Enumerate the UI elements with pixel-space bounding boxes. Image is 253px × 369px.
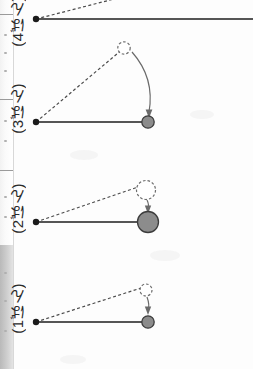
pendulum-2-release-bob <box>137 181 156 200</box>
pendulum-1-pivot <box>33 319 39 325</box>
pendulum-2 <box>33 181 159 233</box>
pendulum-3-release-line <box>36 48 124 122</box>
pendulum-1-bob <box>142 316 154 328</box>
pendulum-3 <box>33 42 154 128</box>
pendulum-1-release-line <box>36 288 141 322</box>
pendulum-3-release-bob <box>118 42 130 54</box>
pendulum-1-release-bob <box>140 284 152 296</box>
pendulum-3-bob <box>142 116 154 128</box>
pendulum-4-pivot <box>33 16 39 22</box>
pendulum-1-arrowhead <box>145 307 151 316</box>
pendulum-diagrams <box>0 0 253 369</box>
pendulum-4-release-line <box>36 0 122 19</box>
pendulum-2-pivot <box>33 219 39 225</box>
pendulum-3-pivot <box>33 119 39 125</box>
worksheet-page: (4ばん) (3ばん) (2ばん) (1ばん) <box>0 0 253 369</box>
pendulum-4 <box>33 0 253 22</box>
pendulum-2-release-line <box>36 187 138 222</box>
pendulum-3-swing-arrow <box>132 52 150 112</box>
pendulum-1 <box>33 284 154 328</box>
pendulum-2-bob <box>138 212 159 233</box>
